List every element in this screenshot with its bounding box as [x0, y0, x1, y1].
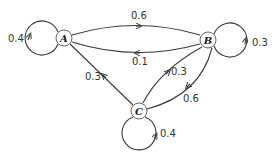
node-b: B [200, 32, 216, 48]
node-a: A [56, 30, 72, 46]
edge-label-b-b: 0.3 [252, 37, 268, 48]
node-label-c: C [135, 106, 143, 117]
node-label-a: A [59, 33, 68, 44]
edge-b-c: 0.6 [147, 48, 212, 109]
edge-c-a: 0.3 [70, 44, 133, 105]
node-c: C [131, 103, 147, 119]
edge-b-a: 0.1 [72, 42, 200, 67]
edge-label-b-a: 0.1 [132, 56, 148, 67]
edge-label-a-a: 0.4 [8, 33, 24, 44]
node-label-b: B [203, 35, 212, 46]
edge-label-a-b: 0.6 [131, 10, 147, 21]
edge-c-c: 0.4 [122, 117, 176, 150]
edge-label-c-c: 0.4 [160, 128, 176, 139]
edge-a-b: 0.6 [72, 10, 200, 35]
edge-b-b: 0.3 [214, 23, 268, 57]
markov-chain-diagram: 0.4 0.6 0.1 0.3 0.3 0.6 0.3 0.4 [0, 0, 278, 156]
edge-label-c-b: 0.3 [171, 66, 187, 77]
edge-label-c-a: 0.3 [85, 71, 101, 82]
edge-label-b-c: 0.6 [183, 93, 199, 104]
edge-a-a: 0.4 [8, 21, 58, 55]
